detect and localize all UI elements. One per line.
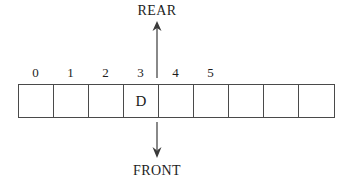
rear-pointer-label: REAR: [0, 2, 333, 20]
index-label: 4: [158, 64, 193, 82]
array-cell: [299, 85, 334, 117]
array-cell: [229, 85, 264, 117]
front-pointer-label: FRONT: [0, 162, 333, 180]
array-cell: [194, 85, 229, 117]
array-cell: [19, 85, 54, 117]
index-label: 2: [88, 64, 123, 82]
array-cell: [89, 85, 124, 117]
array-cell: [264, 85, 299, 117]
array-cell: D: [124, 85, 159, 117]
index-label-row: 0 1 2 3 4 5: [18, 64, 333, 82]
array-cell: [54, 85, 89, 117]
index-label: 3: [123, 64, 158, 82]
front-arrow-icon: [153, 122, 162, 158]
queue-array-diagram: REAR 0 1 2 3 4 5 D FRONT: [0, 0, 352, 185]
index-label: 1: [53, 64, 88, 82]
array-container: D: [18, 84, 335, 118]
index-label: 5: [193, 64, 228, 82]
index-label: 0: [18, 64, 53, 82]
array-cell: [159, 85, 194, 117]
array-cell-value: D: [136, 94, 147, 109]
